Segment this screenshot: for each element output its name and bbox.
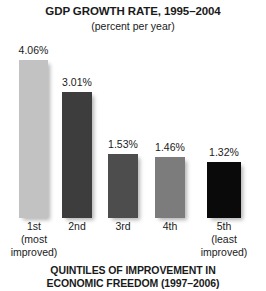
- category-axis: 1st (most improved) 2nd 3rd 4th 5th (lea…: [0, 220, 266, 270]
- x-axis-caption-line2: ECONOMIC FREEDOM (1997–2006): [0, 277, 266, 290]
- bar-1[interactable]: [19, 60, 48, 218]
- bar-group-4: 1.46%: [155, 0, 185, 218]
- bar-value-1: 4.06%: [19, 44, 49, 56]
- bar-group-5: 1.32%: [207, 0, 241, 218]
- bar-value-3: 1.53%: [108, 138, 138, 150]
- bar-5[interactable]: [207, 162, 241, 218]
- x-axis-caption: QUINTILES OF IMPROVEMENT IN ECONOMIC FRE…: [0, 264, 266, 290]
- bar-value-4: 1.46%: [155, 141, 185, 153]
- plot-area: 4.06% 3.01% 1.53% 1.46% 1.32%: [0, 0, 266, 218]
- bar-group-1: 4.06%: [19, 0, 48, 218]
- category-qualifier-1-line2: improved): [0, 246, 68, 259]
- category-qualifier-5-line1: (least: [190, 233, 258, 246]
- bar-group-3: 1.53%: [108, 0, 138, 218]
- category-qualifier-5-line2: improved): [190, 246, 258, 259]
- x-axis-caption-line1: QUINTILES OF IMPROVEMENT IN: [0, 264, 266, 277]
- bar-value-5: 1.32%: [209, 146, 239, 158]
- category-qualifier-1-line1: (most: [0, 233, 68, 246]
- bar-4[interactable]: [155, 157, 185, 218]
- gdp-growth-bar-chart: GDP GROWTH RATE, 1995–2004 (percent per …: [0, 0, 266, 291]
- category-label-5: 5th (least improved): [190, 220, 258, 259]
- bar-value-2: 3.01%: [62, 76, 92, 88]
- bar-group-2: 3.01%: [62, 0, 92, 218]
- category-rank-5: 5th: [190, 220, 258, 233]
- bar-2[interactable]: [62, 92, 92, 218]
- bar-3[interactable]: [108, 154, 138, 218]
